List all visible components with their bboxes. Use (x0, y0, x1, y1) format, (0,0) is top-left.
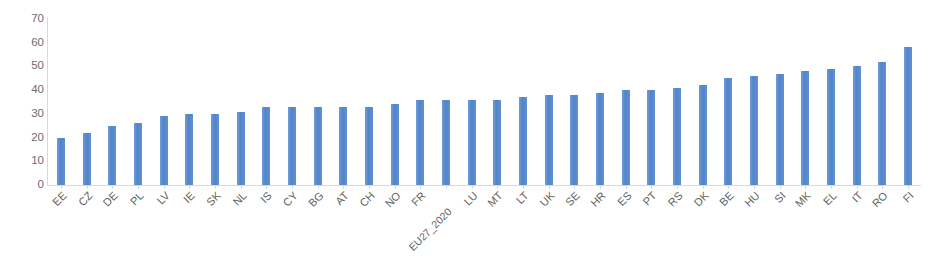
x-axis-tick: RS (664, 186, 690, 262)
bar-slot (202, 19, 228, 185)
bar (83, 133, 91, 185)
bar-slot (793, 19, 819, 185)
bar-slot (716, 19, 742, 185)
bar-slot (818, 19, 844, 185)
tick-mark (574, 186, 575, 189)
x-axis-tick-label: IT (850, 190, 865, 205)
bar-slot (253, 19, 279, 185)
bar (827, 69, 835, 185)
bar (160, 116, 168, 185)
bar-slot (613, 19, 639, 185)
y-axis-tick-label: 60 (4, 37, 44, 49)
x-axis-tick-label: MK (794, 190, 813, 209)
y-axis-tick-label: 50 (4, 61, 44, 73)
tick-mark (703, 186, 704, 189)
x-axis-tick: PL (125, 186, 151, 262)
x-axis-tick-label: MT (486, 190, 505, 209)
bar-slot (741, 19, 767, 185)
bar-slot (305, 19, 331, 185)
x-axis-tick: CZ (74, 186, 100, 262)
tick-mark (112, 186, 113, 189)
x-axis-tick-label: BG (306, 190, 325, 209)
x-axis-tick: EE (48, 186, 74, 262)
x-axis-tick-label: FR (410, 190, 428, 208)
y-axis-tick-label: 30 (4, 108, 44, 120)
x-axis-tick: CY (279, 186, 305, 262)
tick-mark (138, 186, 139, 189)
bar (801, 71, 809, 185)
x-axis-tick-label: RO (871, 190, 890, 209)
x-axis-tick-label: IE (182, 190, 197, 205)
bar-slot (459, 19, 485, 185)
bar-slot (356, 19, 382, 185)
x-axis-tick: HU (741, 186, 767, 262)
x-axis-tick-label: EL (822, 190, 839, 207)
x-axis-tick: NL (228, 186, 254, 262)
x-axis-tick: EL (818, 186, 844, 262)
bar (416, 100, 424, 185)
bar (545, 95, 553, 185)
bar-slot (382, 19, 408, 185)
x-axis-tick: BG (305, 186, 331, 262)
bar (185, 114, 193, 185)
x-axis-tick-label: RS (666, 190, 685, 209)
tick-mark (754, 186, 755, 189)
x-axis-tick: FI (895, 186, 921, 262)
x-axis-tick-label: ES (615, 190, 633, 208)
x-axis-tick: AT (330, 186, 356, 262)
bar-slot (330, 19, 356, 185)
tick-mark (292, 186, 293, 189)
bar-slot (74, 19, 100, 185)
x-axis-tick-label: LV (155, 190, 172, 207)
bar-slot (510, 19, 536, 185)
bar (673, 88, 681, 185)
bar-slot (99, 19, 125, 185)
x-axis-tick: ES (613, 186, 639, 262)
x-axis-tick-label: CY (281, 190, 300, 209)
tick-mark (497, 186, 498, 189)
bar (211, 114, 219, 185)
bar (134, 123, 142, 185)
x-axis-tick: DE (99, 186, 125, 262)
x-axis-tick-label: DE (101, 190, 120, 209)
tick-mark (831, 186, 832, 189)
x-axis-tick: UK (536, 186, 562, 262)
tick-mark (882, 186, 883, 189)
bar (288, 107, 296, 185)
tick-mark (728, 186, 729, 189)
tick-mark (857, 186, 858, 189)
x-axis-tick: SK (202, 186, 228, 262)
tick-mark (677, 186, 678, 189)
tick-mark (805, 186, 806, 189)
bar-slot (536, 19, 562, 185)
bar (57, 138, 65, 185)
x-axis-tick: LU (459, 186, 485, 262)
x-axis-tick-label: SK (204, 190, 222, 208)
y-axis-tick-labels: 010203040506070 (0, 0, 44, 262)
x-axis-tick-label: LT (514, 190, 530, 206)
x-axis-tick: MT (485, 186, 511, 262)
bar-slot (279, 19, 305, 185)
tick-mark (446, 186, 447, 189)
tick-mark (343, 186, 344, 189)
x-axis-tick-label: EE (50, 190, 68, 208)
bar-slot (587, 19, 613, 185)
y-axis-tick-label: 20 (4, 132, 44, 144)
tick-mark (780, 186, 781, 189)
tick-mark (626, 186, 627, 189)
bar (750, 76, 758, 185)
x-axis-tick-label: SE (564, 190, 582, 208)
x-axis-tick: RO (870, 186, 896, 262)
x-axis-tick: EU27_2020 (433, 186, 459, 262)
x-axis-tick: CH (356, 186, 382, 262)
bar-slot (639, 19, 665, 185)
bar (596, 93, 604, 185)
bar (724, 78, 732, 185)
bar-slot (844, 19, 870, 185)
x-axis-tick: PT (639, 186, 665, 262)
bar-slot (767, 19, 793, 185)
x-axis-tick: HR (587, 186, 613, 262)
x-axis-tick-label: BE (718, 190, 736, 208)
x-axis-tick: IE (176, 186, 202, 262)
bar (339, 107, 347, 185)
